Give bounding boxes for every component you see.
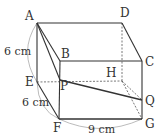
- label-p: P: [60, 79, 68, 93]
- edge-ab: [37, 23, 60, 61]
- edge-hg: [122, 81, 142, 119]
- segment-pq: [60, 80, 142, 100]
- segment-ap: [37, 23, 60, 80]
- label-e: E: [25, 75, 34, 89]
- label-d: D: [120, 6, 130, 20]
- label-c: C: [145, 55, 154, 69]
- cuboid-diagram: A D B C E H P Q F G 6 cm 6 cm 9 cm: [0, 0, 163, 139]
- dimension-label-ef: 6 cm: [22, 96, 50, 109]
- dimension-label-fg: 9 cm: [88, 123, 116, 136]
- edge-dc: [122, 23, 142, 61]
- edge-eh: [37, 81, 122, 82]
- label-f: F: [53, 121, 61, 135]
- dimension-label-ae: 6 cm: [4, 45, 32, 58]
- label-q: Q: [145, 94, 155, 108]
- label-h: H: [106, 66, 116, 80]
- label-a: A: [24, 9, 34, 23]
- label-g: G: [145, 117, 155, 131]
- label-b: B: [61, 47, 70, 61]
